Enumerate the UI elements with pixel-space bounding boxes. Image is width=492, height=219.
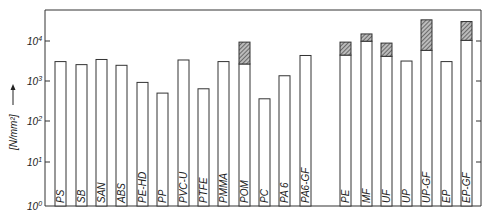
bar-pmma: PMMA <box>218 62 229 206</box>
bar-sb: SB <box>76 65 87 206</box>
category-label: UP <box>401 189 412 203</box>
bar-pe-hd: PE-HD <box>137 82 148 206</box>
y-axis-title: [N/mm²] <box>8 114 19 151</box>
bar-pvc-u: PVC-U <box>178 60 189 206</box>
category-label: PA6-GF <box>300 167 311 203</box>
category-label: PP <box>157 189 168 203</box>
bar-pa-6: PA 6 <box>279 76 290 206</box>
bar-ps: PS <box>55 62 66 206</box>
bar-pa6-gf: PA6-GF <box>300 55 311 206</box>
category-label: UF <box>381 189 392 203</box>
bar-up: UP <box>401 61 412 206</box>
y-tick-label: 103 <box>27 75 42 87</box>
bar-ep-gf: EP-GF <box>461 22 472 206</box>
category-label: PA 6 <box>279 182 290 203</box>
bar-abs: ABS <box>116 65 127 206</box>
y-axis-label: [N/mm²] <box>8 84 19 151</box>
bar-pc: PC <box>259 99 270 206</box>
category-label: PMMA <box>218 173 229 203</box>
category-label: PE-HD <box>137 172 148 203</box>
category-label: PE <box>340 189 351 203</box>
category-label: SAN <box>96 182 107 203</box>
bar-ep: EP <box>441 62 452 206</box>
bar-ptfe: PTFE <box>198 89 209 206</box>
category-label: MF <box>361 188 372 203</box>
y-tick-label: 101 <box>27 156 42 168</box>
bar-mf: MF <box>361 34 372 206</box>
category-label: PVC-U <box>178 171 189 203</box>
bar-pp: PP <box>157 93 168 206</box>
bar-pe: PE <box>340 42 351 206</box>
bar-uf: UF <box>381 43 392 206</box>
arrow-head-icon <box>11 84 16 90</box>
y-tick-label: 102 <box>27 115 42 127</box>
y-tick-label: 100 <box>27 200 42 212</box>
category-label: UP-GF <box>421 171 432 203</box>
category-label: EP <box>441 189 452 203</box>
category-label: EP-GF <box>461 172 472 203</box>
y-tick-label: 104 <box>27 35 42 47</box>
category-label: PC <box>259 188 270 203</box>
bar-san: SAN <box>96 59 107 206</box>
category-label: ABS <box>116 183 127 204</box>
category-label: POM <box>239 180 250 203</box>
category-label: SB <box>76 189 87 203</box>
bar-pom: POM <box>239 42 250 206</box>
bar-up-gf: UP-GF <box>421 20 432 206</box>
category-label: PS <box>55 189 66 203</box>
bar-chart: 100101102103104 PSSBSANABSPE-HDPPPVC-UPT… <box>0 0 492 219</box>
bars: PSSBSANABSPE-HDPPPVC-UPTFEPMMAPOMPCPA 6P… <box>55 20 472 206</box>
category-label: PTFE <box>198 177 209 203</box>
